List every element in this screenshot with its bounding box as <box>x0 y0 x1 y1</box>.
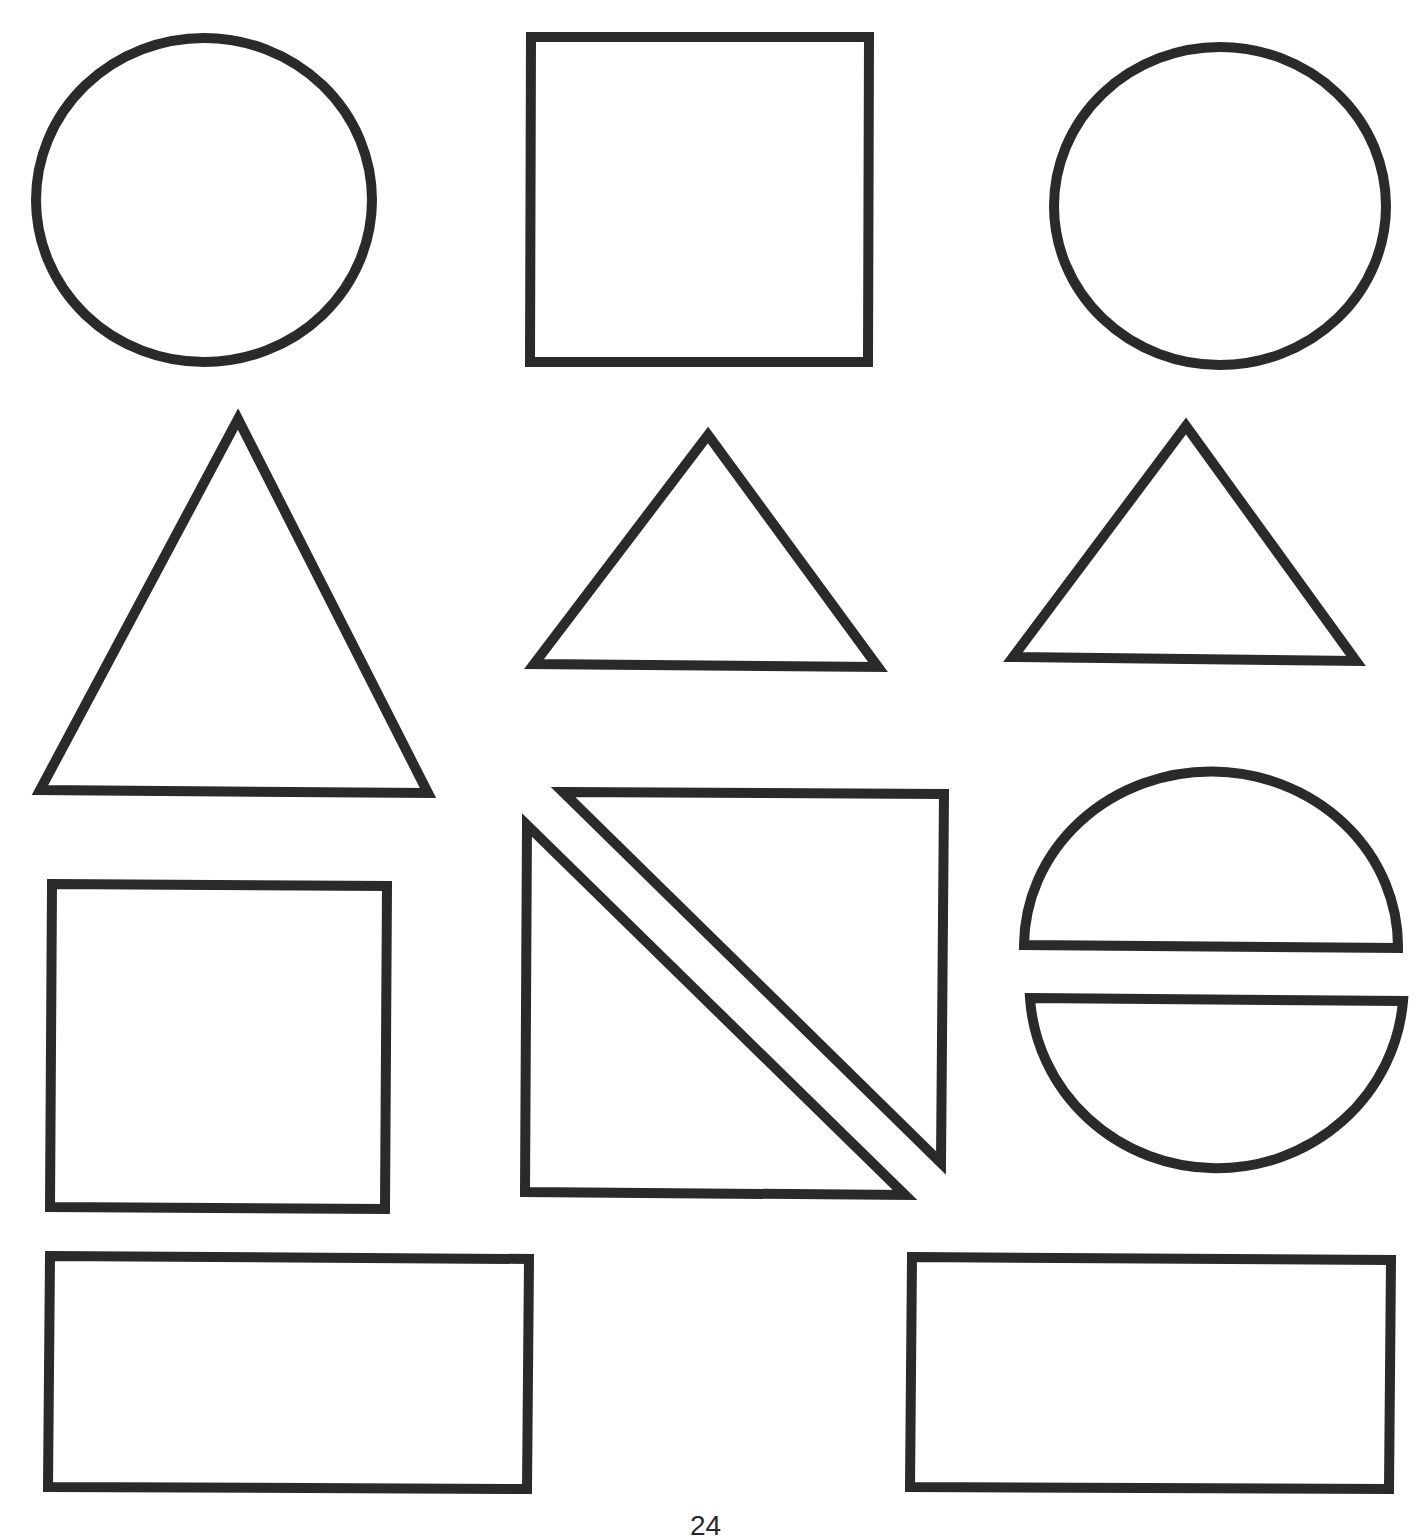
semicircle-bottom <box>1030 998 1403 1168</box>
semicircle-top <box>1024 771 1398 948</box>
triangle-large-left <box>40 419 428 793</box>
square-middle-left <box>50 884 387 1209</box>
circle-top-right <box>1054 47 1386 365</box>
square-top-middle <box>530 37 869 362</box>
rectangle-bottom-left <box>48 1256 529 1489</box>
circle-top-left <box>36 38 372 362</box>
rectangle-bottom-right <box>910 1257 1391 1489</box>
triangle-middle <box>534 435 878 667</box>
shape-layer <box>36 37 1403 1489</box>
page-number: 24 <box>690 1512 721 1539</box>
triangle-right <box>1013 426 1356 661</box>
